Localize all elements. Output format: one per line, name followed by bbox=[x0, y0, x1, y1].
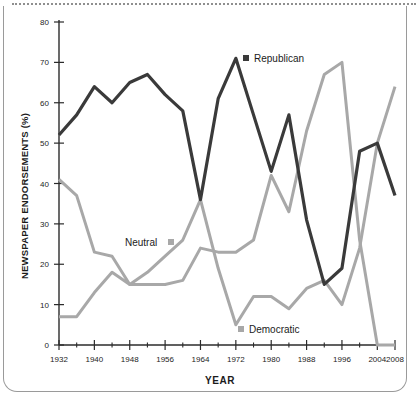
legend-republican: Republican bbox=[243, 53, 304, 64]
legend-swatch-neutral bbox=[168, 239, 174, 245]
legend-label-republican: Republican bbox=[254, 53, 304, 64]
x-tick-label: 1940 bbox=[85, 355, 103, 364]
line-chart-svg: 01020304050607080 1932194019481956196419… bbox=[0, 0, 416, 404]
x-tick-group: 1932194019481956196419721980198819962004… bbox=[50, 340, 404, 364]
y-axis-title: NEWSPAPER ENDORSEMENTS (%) bbox=[19, 113, 30, 279]
y-tick-label: 10 bbox=[40, 301, 49, 310]
y-tick-label: 0 bbox=[45, 341, 50, 350]
legend-swatch-republican bbox=[243, 55, 249, 61]
x-tick-label: 2004 bbox=[368, 355, 386, 364]
x-tick-label: 1932 bbox=[50, 355, 68, 364]
chart-plot-area: 01020304050607080 1932194019481956196419… bbox=[0, 0, 416, 404]
y-tick-label: 40 bbox=[40, 180, 49, 189]
legend-democratic: Democratic bbox=[238, 324, 300, 335]
y-tick-label: 80 bbox=[40, 18, 49, 27]
series-line-neutral bbox=[59, 62, 395, 345]
x-tick-label: 1988 bbox=[298, 355, 316, 364]
x-tick-label: 1972 bbox=[227, 355, 245, 364]
x-tick-label: 1948 bbox=[121, 355, 139, 364]
legend-label-democratic: Democratic bbox=[249, 324, 300, 335]
series-line-democratic bbox=[59, 87, 395, 325]
figure-root: 01020304050607080 1932194019481956196419… bbox=[0, 0, 416, 404]
legend-label-neutral: Neutral bbox=[125, 237, 157, 248]
x-tick-label: 2008 bbox=[386, 355, 404, 364]
y-tick-label: 60 bbox=[40, 99, 49, 108]
x-tick-label: 1956 bbox=[156, 355, 174, 364]
y-tick-label: 50 bbox=[40, 139, 49, 148]
x-tick-label: 1980 bbox=[262, 355, 280, 364]
y-tick-label: 30 bbox=[40, 220, 49, 229]
y-tick-label: 70 bbox=[40, 58, 49, 67]
legend-swatch-democratic bbox=[238, 326, 244, 332]
x-tick-label: 1964 bbox=[192, 355, 210, 364]
y-tick-group: 01020304050607080 bbox=[40, 18, 64, 350]
x-axis-title: YEAR bbox=[205, 375, 235, 386]
x-tick-label: 1996 bbox=[333, 355, 351, 364]
series-group bbox=[59, 58, 395, 345]
legend-neutral: Neutral bbox=[125, 237, 174, 248]
y-tick-label: 20 bbox=[40, 260, 49, 269]
